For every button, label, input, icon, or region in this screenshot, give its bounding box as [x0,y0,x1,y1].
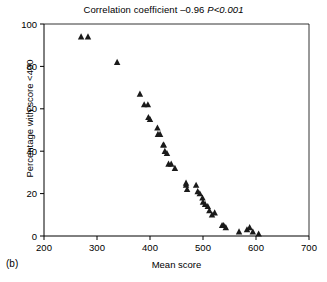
data-point-marker [161,141,167,147]
x-tick-label: 200 [36,242,52,253]
data-point-marker [183,180,189,186]
y-tick-label: 0 [32,231,37,242]
axes [44,24,309,236]
x-tick-label: 400 [142,242,158,253]
data-point-marker [193,182,199,188]
y-tick-label: 100 [21,19,37,30]
data-point-marker [255,230,261,236]
x-tick-label: 700 [301,242,317,253]
x-axis-label: Mean score [44,259,309,270]
data-point-marker [154,124,160,130]
data-point-marker [78,33,84,39]
data-points [78,33,262,236]
scatter-plot: 200300400500600700 020406080100 [0,0,327,282]
figure-panel-b: Correlation coefficient –0.96 P<0.001 20… [0,0,327,282]
y-axis-label: Percentage with score <400 [24,39,35,199]
data-point-marker [236,228,242,234]
x-tick-label: 600 [248,242,264,253]
x-tick-label: 500 [195,242,211,253]
x-tick-label: 300 [89,242,105,253]
x-axis-ticks: 200300400500600700 [36,236,317,253]
data-point-marker [137,91,143,97]
data-point-marker [85,33,91,39]
data-point-marker [114,59,120,65]
panel-label: (b) [6,258,18,269]
